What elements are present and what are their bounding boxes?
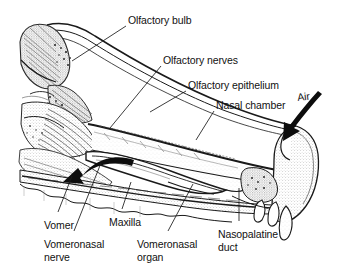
anatomical-figure: Olfactory bulb Olfactory nerves Olfactor… <box>0 0 340 272</box>
label-maxilla: Maxilla <box>109 216 141 229</box>
label-olfactory-nerves: Olfactory nerves <box>163 54 238 67</box>
label-vomeronasal-organ: Vomeronasal organ <box>137 238 197 263</box>
label-vomeronasal-nerve: Vomeronasal nerve <box>44 238 104 263</box>
leader-nasal-chamber <box>196 111 214 140</box>
label-vomer: Vomer <box>44 219 74 232</box>
snout-nostril-region <box>232 124 319 240</box>
label-nasopalatine-duct: Nasopalatine duct <box>218 228 278 253</box>
label-olfactory-bulb: Olfactory bulb <box>128 14 191 27</box>
leader-olfactory-epithelium <box>150 91 186 112</box>
label-air: Air <box>296 90 310 104</box>
label-olfactory-epithelium: Olfactory epithelium <box>188 79 279 92</box>
leader-olfactory-nerves <box>110 66 161 128</box>
label-nasal-chamber: Nasal chamber <box>216 99 285 112</box>
